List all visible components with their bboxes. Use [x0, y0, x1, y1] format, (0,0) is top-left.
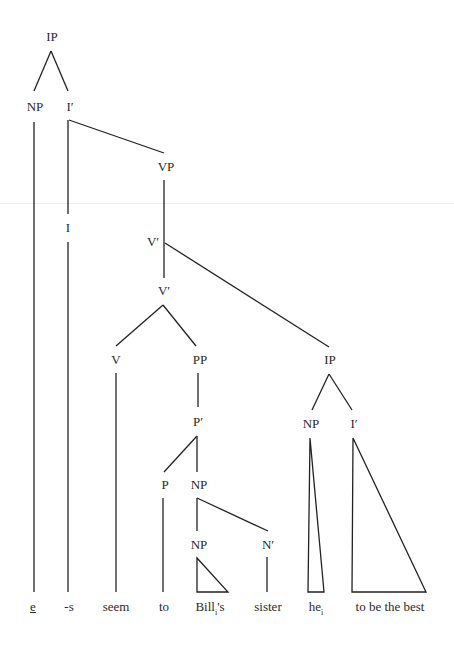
- node-ip-embedded: IP: [324, 353, 336, 367]
- word-suffix-s: -s: [64, 600, 73, 614]
- possessor-suffix: 's: [217, 599, 224, 614]
- word-to: to: [159, 600, 169, 614]
- node-vp: VP: [158, 160, 175, 174]
- node-ibar-main: I′: [66, 100, 73, 114]
- node-pp: PP: [193, 353, 207, 367]
- word-bills: Billi's: [195, 600, 224, 620]
- node-v: V: [111, 353, 120, 367]
- tree-branches: [0, 0, 454, 645]
- pronoun: he: [309, 599, 321, 614]
- possessor-name: Bill: [195, 599, 215, 614]
- node-ibar-embedded: I′: [350, 417, 357, 431]
- node-vbar-lower: V′: [158, 284, 170, 298]
- node-np-possessor: NP: [191, 538, 208, 552]
- word-empty-category: e: [30, 600, 36, 614]
- pronoun-index: i: [321, 608, 323, 617]
- node-ip-root: IP: [46, 30, 58, 44]
- node-np-embedded: NP: [303, 417, 320, 431]
- node-nbar: N′: [262, 538, 274, 552]
- node-np-subject: NP: [27, 100, 44, 114]
- node-np-object: NP: [191, 478, 208, 492]
- word-to-be-the-best: to be the best: [356, 600, 425, 614]
- word-seem: seem: [103, 600, 130, 614]
- node-pbar: P′: [193, 415, 203, 429]
- word-sister: sister: [254, 600, 281, 614]
- node-p: P: [161, 478, 168, 492]
- node-vbar-upper: V′: [147, 235, 159, 249]
- word-he: hei: [309, 600, 324, 620]
- node-i-head: I: [66, 221, 70, 235]
